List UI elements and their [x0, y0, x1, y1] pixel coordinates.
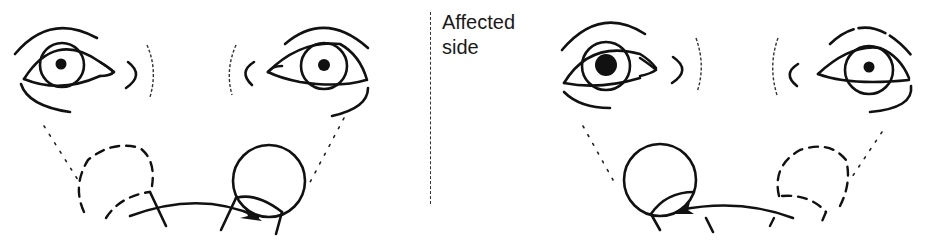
chin-original-position-dashed: [79, 146, 166, 226]
chin-new-position-solid: [624, 144, 713, 232]
diagram-canvas: [0, 0, 926, 244]
pupil-small: [56, 59, 67, 70]
pupil-small: [864, 62, 875, 73]
chin-new-position-solid: [221, 145, 305, 234]
chin-original-position-dashed: [768, 147, 848, 230]
jaw-outline-left: [583, 126, 613, 180]
left-panel-left-eye: [15, 28, 153, 112]
jaw-outline-left: [44, 126, 78, 180]
jaw-outline-right: [850, 132, 882, 180]
right-panel-left-eye: [562, 23, 701, 108]
pupil-small: [318, 59, 330, 71]
left-panel: [15, 28, 368, 234]
arrow-left-icon: [672, 202, 793, 218]
right-panel-right-eye: [773, 28, 912, 112]
left-panel-right-eye: [229, 28, 368, 116]
pupil-large: [595, 54, 617, 76]
right-panel: [562, 23, 912, 232]
jaw-outline-right: [308, 118, 344, 186]
